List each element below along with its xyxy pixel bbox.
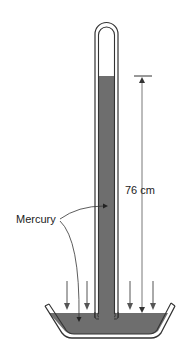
mercury-pointer-tube — [60, 206, 104, 219]
column-height-label: 76 cm — [125, 185, 155, 196]
mercury-column — [99, 76, 115, 316]
barometer-diagram — [0, 0, 185, 356]
mercury-label: Mercury — [16, 214, 56, 225]
